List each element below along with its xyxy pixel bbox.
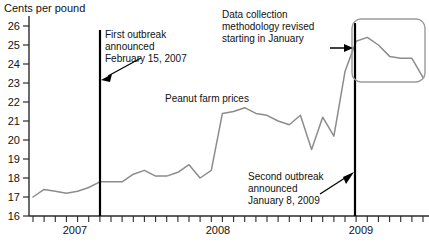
arrow-methodology-revised [330, 44, 353, 52]
arrow-first-outbreak [101, 58, 141, 82]
data-series-line [33, 37, 423, 197]
arrow-second-outbreak [320, 172, 354, 194]
x-axis-ticks [33, 216, 423, 222]
y-axis-ticks [23, 26, 29, 216]
callout-box-2009 [352, 19, 425, 82]
peanut-prices-chart: Cents per pound 26 25 24 23 22 21 20 19 … [0, 0, 429, 242]
chart-canvas [0, 0, 429, 242]
